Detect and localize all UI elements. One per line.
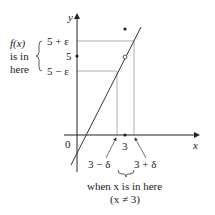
- x-axis-label: x: [192, 139, 198, 151]
- x-tick-center: 3: [122, 140, 128, 152]
- y-tick-center: 5: [66, 50, 72, 62]
- function-line: [71, 27, 141, 165]
- x-axis-point-3: [123, 133, 126, 136]
- left-annotation-line2: is in: [10, 50, 29, 62]
- bottom-annotation-line2: (x ≠ 3): [110, 193, 140, 206]
- left-brace-icon: [36, 41, 42, 71]
- x-tick-left: 3 − δ: [88, 158, 110, 170]
- left-delta-pointer: [106, 138, 116, 158]
- left-annotation-line1: f(x): [10, 37, 26, 50]
- open-circle-hole: [123, 55, 127, 59]
- bottom-brace-icon: [118, 170, 134, 177]
- origin-label: 0: [65, 138, 71, 150]
- y-tick-upper: 5 + ε: [47, 35, 69, 47]
- bottom-annotation-line1: when x is in here: [87, 180, 162, 192]
- y-axis-label: y: [67, 11, 73, 23]
- filled-point-f3: [123, 27, 126, 30]
- right-delta-pointer: [135, 138, 146, 158]
- y-axis-point-5: [75, 54, 78, 57]
- y-tick-lower: 5 − ε: [47, 65, 69, 77]
- x-tick-right: 3 + δ: [134, 158, 156, 170]
- left-annotation-line3: here: [10, 63, 29, 75]
- epsilon-delta-diagram: y x 0 5 + ε 5 5 − ε 3 3 − δ 3 + δ f(x) i…: [0, 0, 215, 215]
